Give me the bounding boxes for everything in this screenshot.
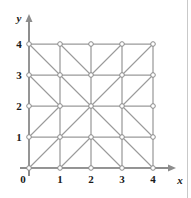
node-2-0	[89, 166, 94, 171]
figure-container: 0 1 2 3 4 1 2 3 4 x y	[0, 0, 191, 198]
node-0-3	[27, 73, 32, 78]
node-2-1	[89, 135, 94, 140]
node-4-2	[151, 104, 156, 109]
diagonal-c1r3	[60, 44, 91, 75]
node-3-3	[120, 73, 125, 78]
diagonal-c1r0	[60, 137, 91, 168]
diagonal-c2r1	[91, 106, 122, 137]
y-axis-label: y	[15, 12, 22, 24]
node-4-0	[151, 166, 156, 171]
y-tick-labels: 1 2 3 4	[16, 38, 22, 143]
node-3-4	[120, 42, 125, 47]
node-2-3	[89, 73, 94, 78]
node-2-4	[89, 42, 94, 47]
node-1-1	[58, 135, 63, 140]
x-tick-3: 3	[119, 173, 125, 185]
diagonal-c0r2	[29, 75, 60, 106]
node-3-2	[120, 104, 125, 109]
node-3-1	[120, 135, 125, 140]
x-axis-arrowhead	[168, 165, 176, 172]
diagonal-c1r1	[60, 106, 91, 137]
node-3-0	[120, 166, 125, 171]
diagonal-c0r0	[29, 137, 60, 168]
node-0-2	[27, 104, 32, 109]
node-0-0	[27, 166, 32, 171]
node-4-4	[151, 42, 156, 47]
diagonal-c3r3	[122, 44, 153, 75]
triangulation-plot: 0 1 2 3 4 1 2 3 4 x y	[0, 0, 191, 198]
diagonal-c1r2	[60, 75, 91, 106]
node-1-0	[58, 166, 63, 171]
x-tick-4: 4	[150, 173, 156, 185]
x-tick-1: 1	[57, 173, 63, 185]
y-axis-arrowhead	[26, 14, 33, 22]
node-0-4	[27, 42, 32, 47]
node-1-2	[58, 104, 63, 109]
diagonal-c0r1	[29, 106, 60, 137]
node-2-2	[89, 104, 94, 109]
node-1-3	[58, 73, 63, 78]
y-tick-2: 2	[16, 100, 22, 112]
x-tick-0: 0	[20, 173, 26, 185]
x-tick-labels: 0 1 2 3 4	[20, 173, 156, 185]
y-tick-1: 1	[16, 131, 22, 143]
diagonal-c2r2	[91, 75, 122, 106]
y-tick-3: 3	[16, 69, 22, 81]
diagonal-c2r3	[91, 44, 122, 75]
x-tick-2: 2	[88, 173, 94, 185]
diagonal-c2r0	[91, 137, 122, 168]
node-0-1	[27, 135, 32, 140]
diagonal-c3r0	[122, 137, 153, 168]
y-tick-4: 4	[16, 38, 22, 50]
node-4-1	[151, 135, 156, 140]
x-axis-label: x	[176, 174, 183, 186]
node-4-3	[151, 73, 156, 78]
node-1-4	[58, 42, 63, 47]
diagonal-c3r2	[122, 75, 153, 106]
diagonal-c3r1	[122, 106, 153, 137]
page-edge-rule	[187, 0, 188, 198]
diagonal-c0r3	[29, 44, 60, 75]
